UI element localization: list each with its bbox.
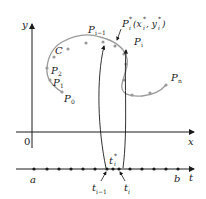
- label-b: b: [174, 173, 180, 184]
- svg-text:i: i: [158, 24, 160, 31]
- svg-text:n: n: [178, 77, 182, 84]
- label-a: a: [30, 174, 36, 185]
- svg-text:2: 2: [58, 70, 62, 77]
- label-t-i-minus-1: t i−1: [92, 182, 107, 195]
- svg-text:P: P: [170, 72, 178, 83]
- y-axis-label: y: [21, 19, 28, 30]
- svg-text:i: i: [128, 188, 130, 195]
- svg-text:*: *: [158, 15, 161, 22]
- t-i-pointer: [120, 172, 125, 181]
- label-p2: P 2: [50, 65, 62, 77]
- map-arrow-t-i-minus-1: [99, 46, 106, 168]
- parametric-curve-diagram: y x 0 C P 0 P 1 P 2 P i−1 P i: [0, 0, 206, 199]
- label-p-n: P n: [170, 72, 182, 84]
- svg-text:): ): [161, 19, 166, 29]
- svg-text:0: 0: [71, 98, 75, 105]
- svg-text:*: *: [129, 15, 132, 22]
- svg-text:i: i: [129, 24, 131, 31]
- label-p0: P 0: [63, 93, 75, 105]
- svg-text:i: i: [141, 41, 143, 48]
- t-axis-label: t: [189, 172, 194, 183]
- svg-text:i: i: [143, 24, 145, 31]
- svg-text:P: P: [52, 77, 60, 88]
- svg-text:i−1: i−1: [96, 188, 107, 195]
- origin-label: 0: [24, 136, 30, 147]
- label-p-i-minus-1: P i−1: [87, 24, 106, 36]
- svg-text:P: P: [121, 18, 129, 29]
- curve-c: [47, 35, 166, 96]
- x-axis-label: x: [188, 136, 194, 147]
- svg-text:(x: (x: [133, 19, 142, 29]
- label-p-i-star: P * i (x * i , y * i ): [121, 15, 166, 31]
- svg-text:P: P: [50, 65, 58, 76]
- label-p-i: P i: [133, 36, 143, 48]
- svg-text:i−1: i−1: [95, 29, 106, 36]
- svg-text:P: P: [87, 24, 95, 35]
- svg-text:i: i: [114, 160, 116, 167]
- svg-text:P: P: [63, 93, 71, 104]
- curve-label-c: C: [55, 45, 63, 56]
- svg-text:*: *: [114, 152, 117, 159]
- map-arrow-t-i: [123, 50, 126, 168]
- label-t-i: t i: [124, 182, 130, 195]
- label-p1: P 1: [52, 77, 64, 89]
- t-i-minus-1-pointer: [101, 172, 106, 181]
- svg-text:P: P: [133, 36, 141, 47]
- label-t-i-star: t * i: [109, 152, 117, 167]
- svg-text:, y: , y: [146, 19, 158, 29]
- p-i-star-pointer: [117, 29, 121, 40]
- svg-text:1: 1: [60, 82, 64, 89]
